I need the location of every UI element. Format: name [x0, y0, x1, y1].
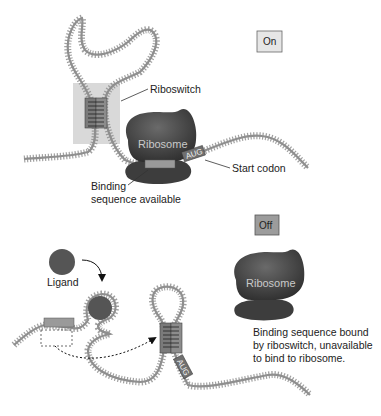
- start-codon-label: Start codon: [232, 162, 286, 174]
- binding-sequence-origin: [44, 318, 74, 327]
- aug-tag-off: AUG: [174, 355, 193, 379]
- start-codon-pointer: [205, 160, 230, 168]
- riboswitch-stem-off: [160, 323, 182, 353]
- off-note-line2: by riboswitch, unavailable: [253, 339, 373, 351]
- off-note-line1: Binding sequence bound: [253, 326, 369, 338]
- ribosome-off: Ribosome: [234, 249, 304, 320]
- on-state-badge: On: [257, 31, 282, 52]
- binding-sequence-ghost: [41, 330, 72, 346]
- svg-text:Off: Off: [259, 220, 272, 231]
- riboswitch-label: Riboswitch: [150, 83, 201, 95]
- binding-move-arrow: [55, 338, 155, 358]
- ribosome-on: Ribosome: [125, 109, 196, 184]
- ligand: [49, 249, 75, 275]
- ligand-arrow: [82, 260, 102, 280]
- ribosome-label-on: Ribosome: [138, 138, 188, 150]
- binding-label-line1: Binding: [91, 180, 126, 192]
- riboswitch-diagram: Riboswitch Ribosome AUG Start codon Bind…: [0, 0, 381, 416]
- bound-ligand: [88, 296, 112, 320]
- off-panel: Off Ligand: [14, 215, 373, 395]
- riboswitch-pointer: [121, 89, 148, 101]
- off-state-badge: Off: [255, 215, 279, 235]
- binding-label-line2: sequence available: [91, 193, 181, 205]
- ribosome-label-off: Ribosome: [246, 277, 296, 289]
- svg-text:On: On: [263, 36, 276, 47]
- riboswitch-stem: [85, 98, 107, 128]
- binding-sequence-box: [145, 160, 175, 168]
- on-panel: Riboswitch Ribosome AUG Start codon Bind…: [24, 18, 308, 205]
- ligand-label: Ligand: [47, 276, 79, 288]
- off-note-line3: to bind to ribosome.: [253, 352, 345, 364]
